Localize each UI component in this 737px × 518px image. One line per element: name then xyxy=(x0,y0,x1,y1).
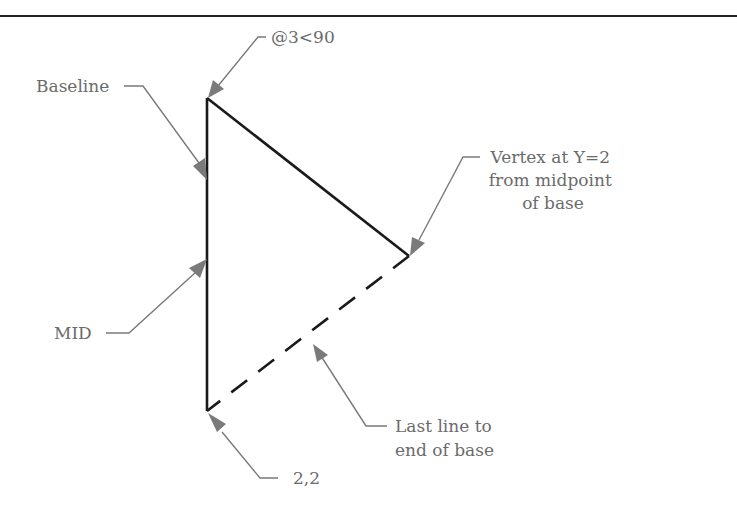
label-vertex-line-3: of base xyxy=(522,193,584,213)
callout-vertex: Vertex at Y=2 from midpoint of base xyxy=(410,147,617,256)
label-baseline: Baseline xyxy=(36,76,109,96)
arrowhead-icon xyxy=(208,80,224,98)
arrowhead-icon xyxy=(313,344,328,362)
leader-line xyxy=(124,86,199,163)
leader-line xyxy=(222,432,278,478)
triangle-top-edge xyxy=(207,98,409,256)
label-vertex-line-1: Vertex at Y=2 xyxy=(490,147,610,167)
callout-baseline: Baseline xyxy=(36,76,207,180)
callout-polar: @3<90 xyxy=(208,27,335,98)
label-polar: @3<90 xyxy=(271,27,335,47)
label-last-line: Last line to end of base xyxy=(395,416,497,460)
leader-line xyxy=(106,272,196,333)
leader-line xyxy=(419,157,480,240)
label-last-line-1: Last line to xyxy=(395,416,492,436)
label-vertex: Vertex at Y=2 from midpoint of base xyxy=(489,147,617,213)
leader-line xyxy=(218,37,266,86)
arrowhead-icon xyxy=(193,158,207,180)
arrowhead-icon xyxy=(208,413,226,432)
callout-last-line: Last line to end of base xyxy=(313,344,497,460)
triangle xyxy=(207,98,409,411)
label-vertex-line-2: from midpoint xyxy=(489,170,612,190)
label-mid: MID xyxy=(54,323,92,343)
triangle-construction-diagram: @3<90 Baseline Vertex at Y=2 from midpoi… xyxy=(0,0,737,518)
label-start-point: 2,2 xyxy=(293,468,320,488)
arrowhead-icon xyxy=(410,237,425,256)
triangle-dashed-edge xyxy=(207,256,409,411)
callout-mid: MID xyxy=(54,259,207,343)
callout-start-point: 2,2 xyxy=(208,413,320,488)
label-last-line-2: end of base xyxy=(395,440,494,460)
leader-line xyxy=(321,356,387,426)
